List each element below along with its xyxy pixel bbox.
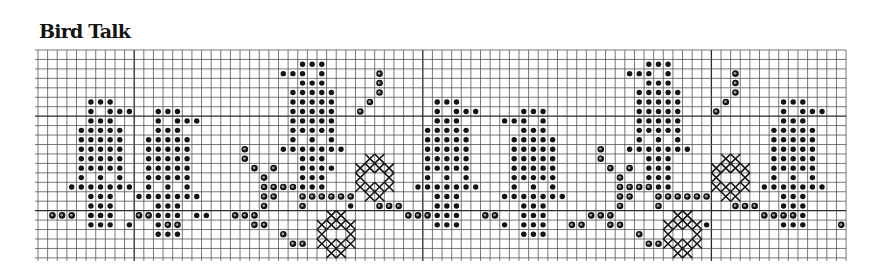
outline-stitch-dot-center: [378, 204, 381, 207]
outline-stitch-dot-center: [282, 185, 285, 188]
bird-stitch-dot: [290, 90, 295, 95]
bird-stitch-dot: [511, 156, 516, 161]
bird-stitch-dot: [646, 165, 651, 170]
outline-stitch-dot-center: [647, 242, 650, 245]
bird-stitch-dot: [675, 99, 680, 104]
bird-stitch-dot: [425, 128, 430, 133]
bird-stitch-dot: [165, 184, 170, 189]
bird-stitch-dot: [88, 165, 93, 170]
bird-stitch-dot: [473, 184, 478, 189]
bird-stitch-dot: [781, 137, 786, 142]
outline-stitch-dot-center: [70, 214, 73, 217]
bird-stitch-dot: [762, 184, 767, 189]
outline-stitch-dot-center: [618, 176, 621, 179]
bird-stitch-dot: [425, 165, 430, 170]
outline-stitch-dot-center: [599, 148, 602, 151]
bird-stitch-dot: [540, 175, 545, 180]
bird-stitch-dot: [329, 118, 334, 123]
bird-stitch-dot: [300, 71, 305, 76]
bird-stitch-dot: [790, 194, 795, 199]
bird-stitch-dot: [771, 165, 776, 170]
bird-stitch-dot: [511, 194, 516, 199]
bird-stitch-dot: [463, 165, 468, 170]
bird-stitch-dot: [675, 118, 680, 123]
bird-stitch-dot: [79, 184, 84, 189]
outline-stitch-dot-center: [637, 185, 640, 188]
bird-stitch-dot: [550, 184, 555, 189]
bird-stitch-dot: [184, 175, 189, 180]
bird-stitch-dot: [819, 184, 824, 189]
outline-stitch-dot-center: [676, 195, 679, 198]
bird-stitch-dot: [781, 118, 786, 123]
bird-stitch-dot: [521, 147, 526, 152]
bird-stitch-dot: [309, 118, 314, 123]
outline-stitch-dot-center: [618, 204, 621, 207]
bird-stitch-dot: [107, 99, 112, 104]
bird-stitch-dot: [117, 109, 122, 114]
bird-stitch-dot: [300, 147, 305, 152]
bird-stitch-dot: [107, 118, 112, 123]
bird-stitch-dot: [511, 118, 516, 123]
bird-stitch-dot: [175, 194, 180, 199]
outline-stitch-dot-center: [416, 214, 419, 217]
bird-stitch-dot: [665, 175, 670, 180]
outline-stitch-dot-center: [628, 195, 631, 198]
bird-stitch-dot: [781, 165, 786, 170]
bird-stitch-dot: [107, 213, 112, 218]
bird-stitch-dot: [521, 109, 526, 114]
bird-stitch-dot: [329, 128, 334, 133]
bird-stitch-dot: [637, 71, 642, 76]
bird-stitch-dot: [637, 147, 642, 152]
bird-stitch-dot: [781, 147, 786, 152]
bird-stitch-dot: [309, 128, 314, 133]
outline-stitch-dot-center: [253, 223, 256, 226]
bird-stitch-dot: [165, 109, 170, 114]
bird-stitch-dot: [156, 156, 161, 161]
bird-stitch-dot: [127, 184, 132, 189]
outline-stitch-dot-center: [272, 185, 275, 188]
bird-stitch-dot: [656, 99, 661, 104]
bird-stitch-dot: [550, 156, 555, 161]
outline-stitch-dot-center: [262, 185, 265, 188]
bird-stitch-dot: [521, 203, 526, 208]
bird-stitch-dot: [184, 194, 189, 199]
solid-stitch-dot: [98, 213, 103, 218]
bird-stitch-dot: [281, 71, 286, 76]
bird-stitch-dot: [184, 165, 189, 170]
bird-stitch-dot: [511, 165, 516, 170]
bird-stitch-dot: [329, 90, 334, 95]
bird-stitch-dot: [136, 194, 141, 199]
bird-stitch-dot: [627, 71, 632, 76]
bird-stitch-dot: [415, 184, 420, 189]
bird-stitch-dot: [69, 184, 74, 189]
bird-stitch-dot: [521, 165, 526, 170]
bird-stitch-dot: [175, 128, 180, 133]
bird-stitch-dot: [319, 175, 324, 180]
outline-stitch-dot-center: [484, 214, 487, 217]
bird-stitch-dot: [646, 80, 651, 85]
bird-stitch-dot: [810, 109, 815, 114]
bird-stitch-dot: [800, 137, 805, 142]
bird-stitch-dot: [117, 175, 122, 180]
bird-stitch-dot: [800, 99, 805, 104]
bird-stitch-dot: [810, 137, 815, 142]
bird-stitch-dot: [637, 128, 642, 133]
bird-stitch-dot: [454, 203, 459, 208]
bird-stitch-dot: [194, 118, 199, 123]
outline-stitch-dot-center: [349, 195, 352, 198]
bird-stitch-dot: [435, 184, 440, 189]
outline-stitch-dot-center: [637, 233, 640, 236]
bird-stitch-dot: [521, 118, 526, 123]
bird-stitch-dot: [810, 175, 815, 180]
bird-stitch-dot: [175, 175, 180, 180]
bird-stitch-dot: [511, 147, 516, 152]
bird-stitch-dot: [156, 194, 161, 199]
outline-stitch-dot-center: [657, 195, 660, 198]
outline-stitch-dot-center: [272, 195, 275, 198]
bird-stitch-dot: [300, 90, 305, 95]
bird-stitch-dot: [107, 147, 112, 152]
outline-stitch-dot-center: [695, 195, 698, 198]
bird-stitch-dot: [819, 109, 824, 114]
solid-stitch-dot: [204, 213, 209, 218]
bird-stitch-dot: [665, 109, 670, 114]
